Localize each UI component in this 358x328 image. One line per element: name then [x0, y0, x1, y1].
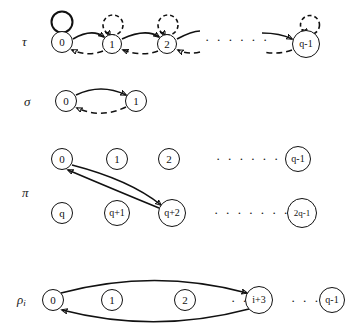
self-loop-tau-0 [52, 12, 73, 33]
edge-pi-solid-0-qp2 [72, 165, 161, 205]
edge-tau-dash-dots-2 [178, 50, 200, 53]
node-tau-2[interactable]: 2 [157, 34, 177, 54]
edge-tau-dash-1-0 [72, 50, 103, 54]
edge-tau-solid-0-1 [73, 33, 104, 39]
node-pi-1[interactable]: 1 [106, 148, 128, 170]
edge-sigma-dash-1-0 [77, 107, 126, 113]
node-pi-2q-minus-1[interactable]: 2q-1 [287, 198, 317, 228]
ellipsis-pi-bottom: · · · · · · · [214, 206, 290, 219]
node-sigma-0[interactable]: 0 [55, 90, 77, 112]
node-pi-q-minus-1[interactable]: q-1 [285, 146, 311, 172]
edge-rho-solid-ip3-0 [62, 309, 249, 322]
ellipsis-tau: · · · · · · [205, 33, 269, 46]
node-rho-i-plus-3[interactable]: i+3 [245, 286, 273, 314]
node-tau-1[interactable]: 1 [102, 34, 122, 54]
node-rho-1[interactable]: 1 [101, 289, 123, 311]
ellipsis-rho-right: · · · [291, 294, 321, 307]
edge-tau-solid-2-dots [177, 31, 200, 39]
node-pi-2[interactable]: 2 [158, 148, 180, 170]
node-tau-0[interactable]: 0 [51, 31, 73, 53]
edge-rho-solid-0-ip3 [61, 281, 247, 294]
self-loop-tau-1 [103, 15, 123, 35]
edge-tau-solid-1-2 [122, 33, 159, 39]
node-tau-q-minus-1[interactable]: q-1 [292, 30, 320, 58]
node-pi-0[interactable]: 0 [51, 148, 73, 170]
edge-tau-dash-qm1-dots [264, 50, 292, 53]
edge-sigma-solid-0-1 [76, 89, 126, 95]
node-pi-q-plus-2[interactable]: q+2 [158, 199, 186, 227]
ellipsis-pi-top: · · · · · · [216, 152, 280, 165]
node-pi-q-plus-1[interactable]: q+1 [104, 200, 130, 226]
self-loop-tau-2 [158, 15, 178, 35]
permutation-diagram-figure: τ σ π ρi 0 1 2 q-1 · · · · · · 0 1 0 1 2… [0, 0, 358, 328]
node-sigma-1[interactable]: 1 [125, 90, 147, 112]
node-rho-2[interactable]: 2 [174, 289, 196, 311]
node-rho-q-minus-1[interactable]: q-1 [319, 287, 345, 313]
edge-tau-dash-2-1 [123, 50, 158, 54]
node-pi-q[interactable]: q [51, 202, 73, 224]
node-rho-0[interactable]: 0 [42, 289, 64, 311]
